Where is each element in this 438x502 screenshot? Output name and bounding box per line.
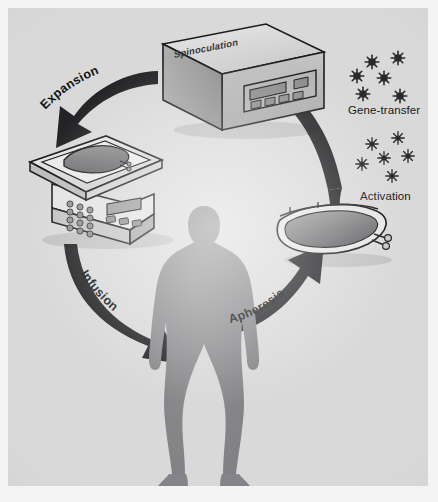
figure-root: Spinoculation bbox=[0, 0, 438, 502]
cart-cycle-diagram: Spinoculation bbox=[8, 8, 428, 486]
figure-panel: Spinoculation bbox=[8, 8, 428, 486]
rocking-bioreactor bbox=[30, 136, 174, 249]
cell-culture-bag bbox=[277, 202, 392, 267]
label-gene-transfer: Gene-transfer bbox=[348, 104, 420, 116]
viral-vector-particles bbox=[350, 51, 407, 103]
activation-bead-particles bbox=[356, 132, 414, 182]
spinoculation-centrifuge: Spinoculation bbox=[163, 24, 324, 139]
label-activation: Activation bbox=[360, 190, 411, 202]
